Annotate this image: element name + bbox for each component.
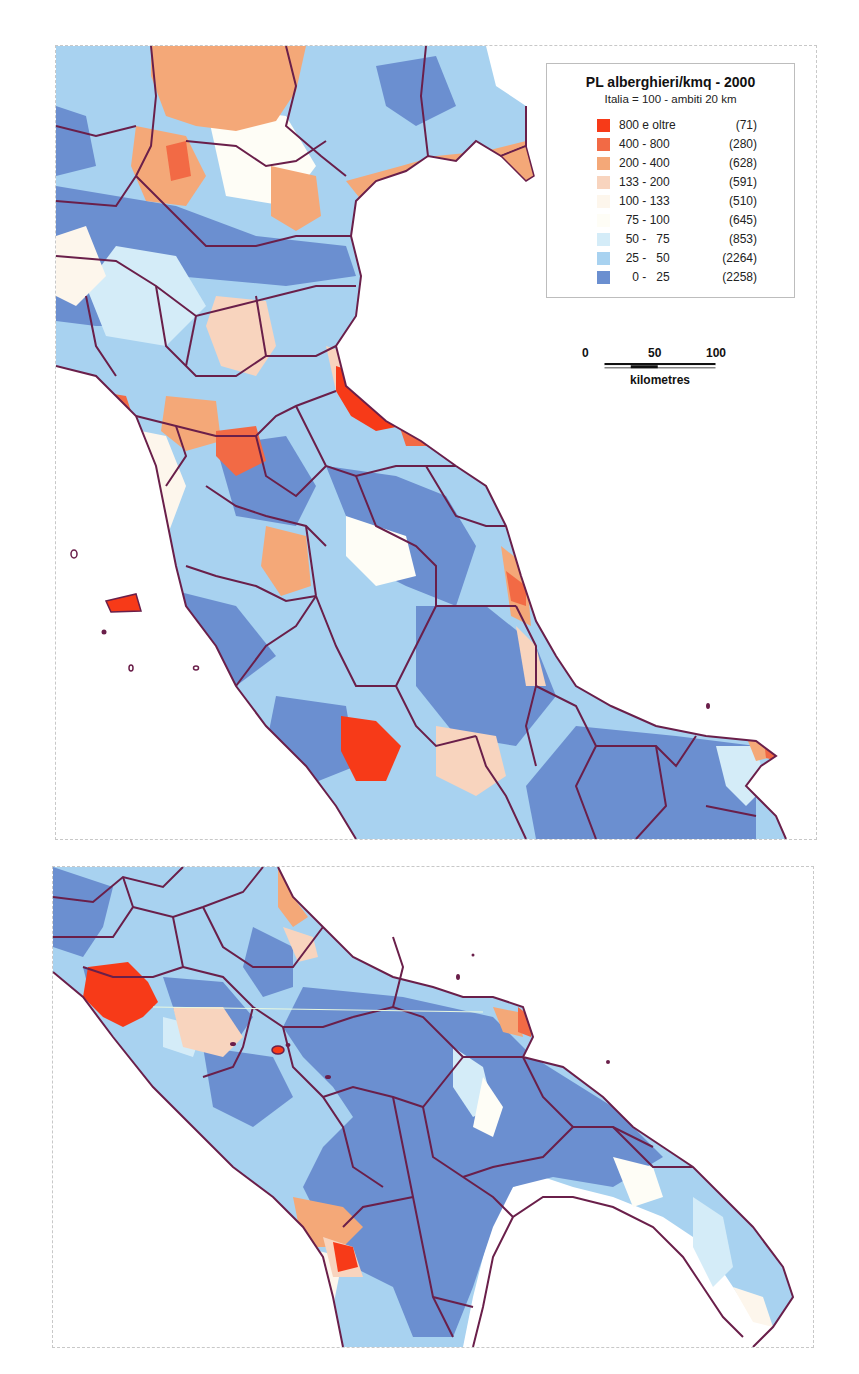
legend-range: 800 e oltre: [619, 118, 699, 132]
legend-count: (645): [729, 213, 757, 227]
scale-bar: 0 50 100 kilometres: [582, 346, 732, 390]
scale-label-0: 0: [582, 346, 589, 360]
legend-count: (2258): [722, 270, 757, 284]
legend-count: (591): [729, 175, 757, 189]
legend-item: 100 - 133 (510): [597, 192, 767, 211]
legend-range: 100 - 133: [619, 194, 699, 208]
legend-count: (853): [729, 232, 757, 246]
legend-swatch: [597, 119, 610, 132]
scale-bar-graphic: [586, 363, 734, 369]
legend-count: (2264): [722, 251, 757, 265]
legend-count: (510): [729, 194, 757, 208]
legend-items: 800 e oltre (71) 400 - 800 (280) 200 - 4…: [597, 116, 767, 287]
legend-range: 75 - 100: [619, 213, 699, 227]
legend-title: PL alberghieri/kmq - 2000: [547, 74, 794, 90]
legend-range: 133 - 200: [619, 175, 699, 189]
scale-label-50: 50: [648, 346, 661, 360]
scale-label-100: 100: [706, 346, 726, 360]
legend-range: 200 - 400: [619, 156, 699, 170]
legend-item: 50 - 75 (853): [597, 230, 767, 249]
legend-swatch: [597, 271, 610, 284]
legend-item: 800 e oltre (71): [597, 116, 767, 135]
legend-item: 0 - 25 (2258): [597, 268, 767, 287]
choropleth-map-south: [53, 867, 813, 1347]
legend-swatch: [597, 252, 610, 265]
legend-count: (628): [729, 156, 757, 170]
scale-unit: kilometres: [630, 373, 690, 387]
legend-item: 75 - 100 (645): [597, 211, 767, 230]
legend-swatch: [597, 214, 610, 227]
legend-swatch: [597, 233, 610, 246]
legend-range: 50 - 75: [619, 232, 699, 246]
legend-range: 25 - 50: [619, 251, 699, 265]
legend-range: 0 - 25: [619, 270, 699, 284]
map-panel-south: [52, 866, 814, 1348]
legend-item: 133 - 200 (591): [597, 173, 767, 192]
legend-count: (280): [729, 137, 757, 151]
legend-swatch: [597, 176, 610, 189]
legend-item: 200 - 400 (628): [597, 154, 767, 173]
legend-item: 25 - 50 (2264): [597, 249, 767, 268]
legend-swatch: [597, 138, 610, 151]
figure-caption-cropped: [80, 1355, 780, 1374]
legend-swatch: [597, 157, 610, 170]
legend-swatch: [597, 195, 610, 208]
legend-item: 400 - 800 (280): [597, 135, 767, 154]
map-legend: PL alberghieri/kmq - 2000 Italia = 100 -…: [546, 63, 795, 298]
legend-range: 400 - 800: [619, 137, 699, 151]
legend-count: (71): [736, 118, 757, 132]
legend-subtitle: Italia = 100 - ambiti 20 km: [547, 93, 794, 105]
